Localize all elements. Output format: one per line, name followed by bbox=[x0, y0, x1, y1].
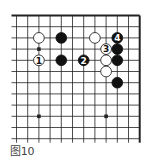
black-stone bbox=[112, 44, 123, 55]
move-number-label: 1 bbox=[36, 56, 42, 66]
white-stone bbox=[90, 33, 101, 44]
white-stone: 1 bbox=[34, 55, 45, 66]
figure-caption: 图10 bbox=[10, 142, 34, 158]
black-stone: 4 bbox=[112, 33, 123, 44]
move-number-label: 2 bbox=[81, 56, 87, 66]
black-stone bbox=[56, 33, 67, 44]
move-number-label: 3 bbox=[103, 44, 109, 54]
white-stone bbox=[101, 66, 112, 77]
white-stone bbox=[101, 55, 112, 66]
black-stone bbox=[56, 55, 67, 66]
star-point bbox=[37, 115, 41, 119]
black-stone bbox=[112, 55, 123, 66]
move-number-label: 4 bbox=[114, 33, 120, 43]
go-board-diagram: 4312 bbox=[0, 0, 145, 145]
white-stone: 3 bbox=[101, 44, 112, 55]
star-point bbox=[37, 47, 41, 51]
black-stone: 2 bbox=[78, 55, 89, 66]
white-stone bbox=[34, 33, 45, 44]
black-stone bbox=[112, 77, 123, 88]
star-point bbox=[104, 115, 108, 119]
